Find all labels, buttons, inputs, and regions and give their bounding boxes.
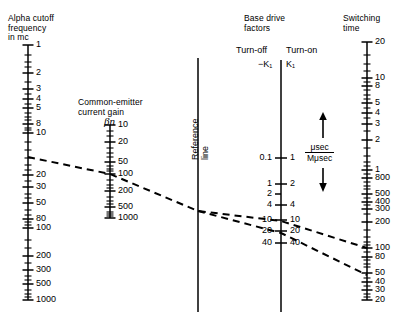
tick-label: 8	[375, 81, 380, 90]
tick-label: 500	[118, 202, 133, 211]
tick-label: 4	[290, 200, 295, 209]
tick-label: 5	[36, 103, 41, 112]
tick-label: 2	[375, 135, 380, 144]
arrow-layer	[0, 0, 407, 312]
tick-label: 1	[290, 153, 295, 162]
down-arrow-icon	[319, 168, 327, 192]
tick-label: 20	[375, 37, 385, 46]
tick-label: 20	[375, 295, 385, 304]
tick-label: 3	[375, 119, 380, 128]
tick-label: 30	[375, 285, 385, 294]
tick-label: 300	[375, 204, 390, 213]
tick-label: 1	[36, 40, 41, 49]
tick-label: 4	[375, 108, 380, 117]
tick-label: 100	[36, 223, 51, 232]
tick-label: 10	[262, 215, 272, 224]
tick-label: 200	[36, 251, 51, 260]
tick-label: 100	[118, 169, 133, 178]
tick-label: 500	[36, 279, 51, 288]
tick-label: 300	[36, 265, 51, 274]
tick-label: 50	[118, 157, 128, 166]
tick-label: 0.1	[259, 153, 272, 162]
nomograph-figure: Alpha cutoff frequency in mc Common-emit…	[0, 0, 407, 312]
tick-label: 10	[36, 128, 46, 137]
tick-label: 2	[36, 68, 41, 77]
tick-label: 10	[290, 215, 300, 224]
tick-label: 40	[262, 238, 272, 247]
tick-label: 2	[267, 189, 272, 198]
tick-label: 10	[118, 120, 128, 129]
tick-label: 1	[267, 179, 272, 188]
tick-label: 20	[262, 226, 272, 235]
tick-label: 20	[36, 170, 46, 179]
tick-label: 200	[118, 186, 133, 195]
tick-label: 20	[290, 226, 300, 235]
tick-label: 20	[118, 137, 128, 146]
tick-label: 1000	[118, 213, 138, 222]
tick-label: 4	[267, 200, 272, 209]
tick-label: 3	[36, 84, 41, 93]
tick-label: 40	[290, 238, 300, 247]
tick-label: 2	[290, 179, 295, 188]
tick-label: 50	[36, 198, 46, 207]
tick-label: 800	[375, 173, 390, 182]
tick-label: 200	[375, 217, 390, 226]
up-arrow-icon	[319, 112, 327, 138]
tick-label: 30	[36, 182, 46, 191]
tick-label: 5	[375, 98, 380, 107]
tick-label: 1000	[36, 295, 56, 304]
tick-label: 80	[375, 252, 385, 261]
